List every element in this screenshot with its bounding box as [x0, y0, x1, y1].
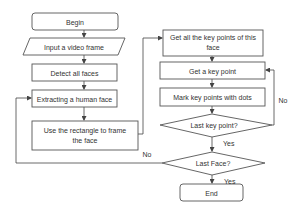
node-extract-face-label: Extracting a human face	[37, 96, 113, 104]
node-get-all-points-label-line1: Get all the key points of this	[170, 34, 256, 42]
edge-lastkey-no	[266, 70, 274, 125]
node-detect-faces: Detect all faces	[32, 64, 117, 81]
node-end-label: End	[205, 190, 218, 197]
label-last-key-point-yes: Yes	[223, 140, 235, 147]
node-begin-label: Begin	[66, 19, 84, 27]
node-frame-face: Use the rectangle to frame the face	[32, 121, 138, 150]
node-extract-face: Extracting a human face	[32, 90, 117, 107]
node-get-all-points-label-line2: face	[206, 44, 219, 51]
node-frame-face-label-line2: the face	[73, 137, 98, 144]
node-get-point-label: Get a key point	[189, 68, 236, 76]
node-last-face-label: Last Face?	[196, 160, 231, 167]
flowchart-canvas: Begin Input a video frame Detect all fac…	[0, 0, 303, 214]
node-detect-faces-label: Detect all faces	[51, 70, 99, 77]
label-last-key-point-no: No	[279, 97, 288, 104]
node-mark-points-label: Mark key points with dots	[173, 94, 252, 102]
node-last-key-point-label: Last key point?	[190, 122, 237, 130]
label-last-face-no: No	[143, 151, 152, 158]
node-end: End	[180, 184, 243, 201]
edge-frame-getall	[138, 38, 162, 134]
node-last-key-point: Last key point?	[160, 114, 272, 137]
node-get-all-points: Get all the key points of this face	[163, 30, 263, 56]
node-input-frame: Input a video frame	[23, 38, 125, 55]
label-last-face-yes: Yes	[224, 178, 236, 185]
node-last-face: Last Face?	[162, 152, 265, 175]
node-begin: Begin	[32, 13, 118, 30]
node-mark-points: Mark key points with dots	[160, 88, 265, 106]
node-input-frame-label: Input a video frame	[44, 44, 104, 52]
node-frame-face-label-line1: Use the rectangle to frame	[44, 127, 127, 135]
node-get-point: Get a key point	[160, 62, 265, 79]
